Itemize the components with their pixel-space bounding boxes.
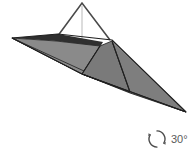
- figure-canvas: 30°: [0, 0, 194, 155]
- rotation-angle-label: 30°: [171, 134, 188, 145]
- rotation-indicator: 30°: [146, 124, 194, 154]
- rotation-arrow-icon: [146, 128, 168, 150]
